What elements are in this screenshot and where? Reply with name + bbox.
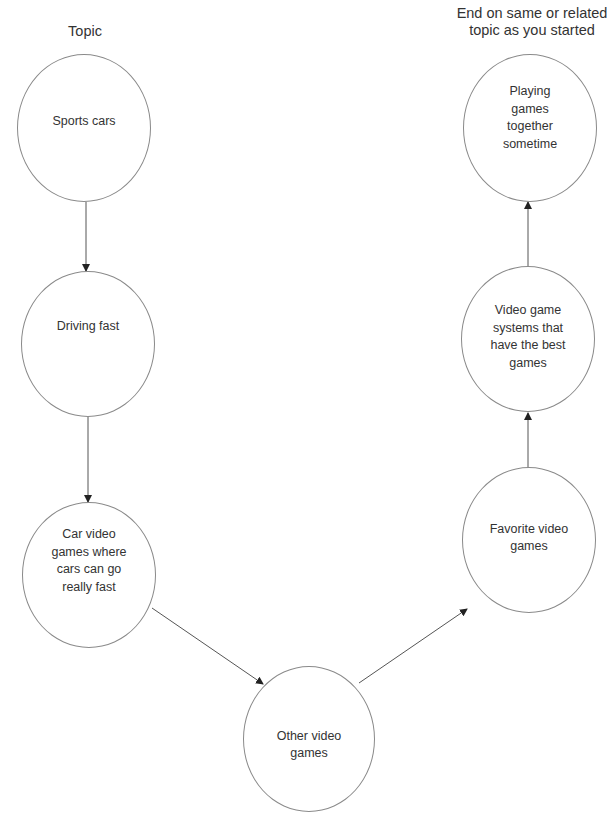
node-label-line: Sports cars [52, 113, 115, 131]
node-label: Other videogames [277, 728, 342, 763]
node-label-line: Video game [490, 302, 565, 320]
node-label-line: Other video [277, 728, 342, 746]
node-label-line: systems that [490, 320, 565, 338]
node-label: Favorite videogames [490, 521, 569, 556]
end-topic-heading: End on same or related topic as you star… [452, 5, 608, 39]
end-topic-heading-line2: topic as you started [452, 22, 608, 39]
node-label-line: cars can go [51, 561, 126, 579]
flow-diagram: Topic End on same or related topic as yo… [0, 0, 608, 820]
arrow-other-video-games-to-favorite-video-games [359, 609, 467, 683]
start-topic-heading: Topic [40, 23, 130, 40]
node-label-line: games where [51, 544, 126, 562]
node-label-line: Playing [503, 83, 557, 101]
node-label: Driving fast [57, 318, 120, 336]
node-video-game-systems: Video gamesystems thathave the bestgames [461, 266, 595, 412]
node-playing-games-together: Playinggamestogethersometime [463, 54, 597, 202]
node-label: Car videogames wherecars can goreally fa… [51, 526, 126, 596]
node-favorite-video-games: Favorite videogames [462, 467, 596, 613]
node-label-line: have the best [490, 337, 565, 355]
node-label: Playinggamestogethersometime [503, 83, 557, 153]
node-label-line: games [277, 745, 342, 763]
node-label-line: games [490, 538, 569, 556]
node-label-line: Favorite video [490, 521, 569, 539]
node-car-video-games: Car videogames wherecars can goreally fa… [22, 502, 156, 648]
end-topic-heading-line1: End on same or related [452, 5, 608, 22]
node-label-line: together [503, 118, 557, 136]
node-sports-cars: Sports cars [17, 54, 151, 202]
node-label-line: games [490, 355, 565, 373]
node-driving-fast: Driving fast [21, 271, 155, 417]
node-label-line: games [503, 101, 557, 119]
arrow-car-video-games-to-other-video-games [152, 608, 263, 684]
node-label: Video gamesystems thathave the bestgames [490, 302, 565, 372]
node-label-line: Car video [51, 526, 126, 544]
node-other-video-games: Other videogames [243, 666, 375, 812]
node-label-line: sometime [503, 136, 557, 154]
node-label: Sports cars [52, 113, 115, 131]
node-label-line: really fast [51, 579, 126, 597]
node-label-line: Driving fast [57, 318, 120, 336]
